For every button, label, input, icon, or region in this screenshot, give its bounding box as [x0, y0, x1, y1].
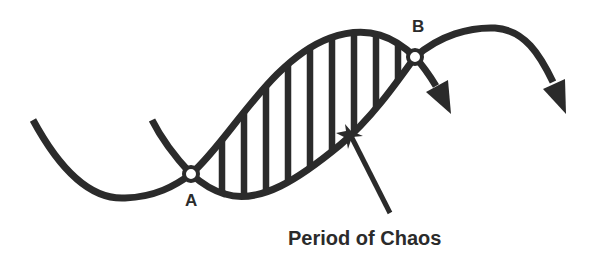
- branch-over-curve: [415, 28, 553, 82]
- old-trend-curve: [33, 120, 191, 198]
- point-a-node: [184, 167, 198, 181]
- point-b-node: [408, 50, 422, 64]
- caption-pointer-line: [350, 134, 390, 213]
- point-a-label: A: [185, 192, 197, 209]
- chaos-caption: Period of Chaos: [288, 228, 441, 248]
- entry-curve: [152, 120, 191, 174]
- branch-down-arrowhead: [426, 80, 451, 114]
- point-b-label: B: [412, 18, 424, 35]
- diagram-canvas: [0, 0, 596, 260]
- branch-over-arrowhead: [543, 79, 566, 114]
